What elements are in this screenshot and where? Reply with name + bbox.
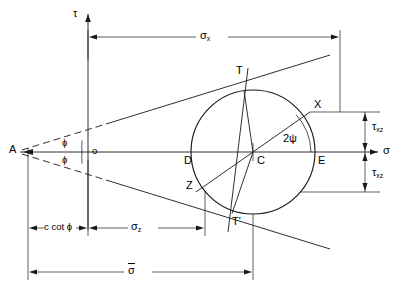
- origin-label: o: [92, 146, 97, 156]
- dim-label-tau-xz-upper-subscript: xz: [376, 126, 383, 133]
- point-label-T-prime: T': [232, 216, 241, 227]
- dim-label-tau-xz-upper: τxz: [372, 121, 383, 133]
- dim-label-sigma-z: σz: [131, 221, 141, 233]
- point-label-D: D: [184, 155, 192, 166]
- phi-upper-label: ϕ: [62, 138, 67, 148]
- dim-label-sigma-x-symbol: σ: [200, 29, 207, 41]
- dim-arrow-sigma-x-left: [89, 34, 97, 39]
- dim-arrow-sigmaz-left: [89, 225, 97, 230]
- point-label-X: X: [314, 99, 321, 110]
- tau-axis-label: τ: [73, 8, 77, 19]
- mohr-circle-figure: [0, 0, 402, 298]
- chord-T-Tprime: [228, 68, 248, 232]
- dim-arrow-sigmabar-right: [244, 269, 252, 274]
- dim-arrow-sigma-x-right: [331, 34, 339, 39]
- point-label-E: E: [318, 155, 325, 166]
- dim-arrow-sigmabar-left: [29, 269, 37, 274]
- dim-label-sigma-bar: σ: [128, 265, 135, 276]
- two-psi-label: 2ψ: [283, 133, 297, 144]
- failure-envelope-upper: [106, 55, 330, 124]
- point-label-Z: Z: [186, 180, 193, 191]
- failure-envelope-lower: [106, 180, 330, 249]
- sigma-axis-label: σ: [383, 145, 390, 156]
- dim-arrow-tau-upper-bottom: [362, 143, 367, 151]
- dim-label-tau-xz-lower: τxz: [372, 167, 383, 179]
- sigma-axis-arrowhead: [370, 149, 378, 155]
- overbar: [128, 263, 135, 264]
- radius-CTprime: [232, 152, 253, 214]
- phi-lower-label: ϕ: [62, 155, 67, 165]
- point-label-A: A: [9, 144, 16, 155]
- dim-label-sigma-z-subscript: z: [138, 226, 142, 233]
- dim-label-sigma-x: σx: [200, 30, 210, 42]
- dim-arrow-sigmaz-right: [196, 225, 204, 230]
- dim-arrow-tau-upper-top: [362, 113, 367, 121]
- point-label-T: T: [236, 65, 243, 76]
- dim-label-sigma-bar-symbol: σ: [128, 264, 135, 276]
- dim-label-tau-xz-lower-subscript: xz: [376, 172, 383, 179]
- tau-axis-arrowhead: [85, 14, 91, 22]
- dim-label-c-cot-phi: c cot ϕ: [44, 222, 72, 232]
- dim-arrow-tau-lower-top: [362, 153, 367, 161]
- radius-CT: [244, 91, 253, 153]
- dim-label-sigma-x-subscript: x: [207, 35, 211, 42]
- dim-arrow-ccot-right: [79, 225, 87, 230]
- dim-arrow-ccot-left: [29, 225, 37, 230]
- point-label-C: C: [257, 155, 265, 166]
- dim-arrow-tau-lower-bottom: [362, 183, 367, 191]
- dim-label-sigma-z-symbol: σ: [131, 220, 138, 232]
